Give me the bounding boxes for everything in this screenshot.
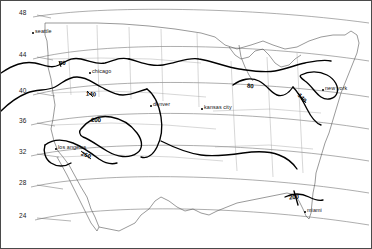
latitude-label-32: 32 <box>19 148 27 155</box>
city-dot-kansas-city <box>201 108 203 110</box>
city-dot-denver <box>150 105 152 107</box>
city-label-miami: miami <box>307 207 322 213</box>
state-line-l <box>297 53 303 173</box>
contour-80-main <box>129 59 331 72</box>
latitude-label-24: 24 <box>19 212 27 219</box>
leader-28 <box>37 185 63 189</box>
leader-24 <box>37 218 71 221</box>
state-line-c <box>129 27 131 99</box>
latitude-label-48: 48 <box>19 9 27 16</box>
contour-140-eastarm <box>141 89 162 158</box>
leader-40 <box>37 93 55 96</box>
city-dot-miami <box>304 211 306 213</box>
city-dot-seattle <box>32 32 34 34</box>
latitude-line-28 <box>31 177 369 193</box>
coast-california-baja <box>57 151 99 231</box>
state-line-e <box>197 33 199 107</box>
contour-label-140-west: 140 <box>86 90 97 97</box>
contour-200-loop <box>80 117 142 157</box>
contour-label-200-southwest: 200 <box>91 117 101 124</box>
city-label-new-york: new york <box>325 85 347 91</box>
latitude-label-36: 36 <box>19 117 27 124</box>
contour-140-west <box>1 77 147 111</box>
latitude-line-48 <box>33 9 369 23</box>
city-dot-chicago <box>89 72 91 74</box>
contour-label-80-west: 80 <box>59 60 66 67</box>
city-dot-new-york <box>322 89 324 91</box>
city-label-chicago: chicago <box>92 68 111 74</box>
contour-label-80-midwest: 80 <box>247 83 254 90</box>
contour-label-200-florida: 200 <box>289 193 300 200</box>
latitude-gridlines <box>31 9 369 225</box>
city-label-denver: denver <box>153 101 170 107</box>
atlantic-coast <box>316 31 359 173</box>
city-label-seattle: seattle <box>35 28 52 34</box>
city-label-kansas-city: kansas city <box>204 104 232 110</box>
latitude-leader-lines <box>37 15 71 221</box>
gulf-coast <box>161 193 295 215</box>
contour-map-figure: 48 44 40 36 32 28 24 seattle chicago den… <box>0 0 372 249</box>
lake-michigan <box>239 45 253 81</box>
us-coastline <box>45 23 359 231</box>
mexico-east-border <box>99 197 161 231</box>
leader-44 <box>37 57 53 60</box>
northern-border <box>45 23 345 49</box>
city-dot-los-angeles <box>55 148 57 150</box>
city-label-los-angeles: los angeles <box>58 144 86 150</box>
latitude-label-40: 40 <box>19 87 27 94</box>
latitude-label-44: 44 <box>19 51 27 58</box>
latitude-line-36 <box>31 113 369 129</box>
state-line-h <box>53 123 216 129</box>
latitude-label-28: 28 <box>19 179 27 186</box>
leader-32 <box>37 154 59 157</box>
